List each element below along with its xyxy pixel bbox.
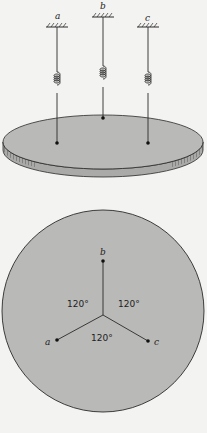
label-c-top: c — [145, 13, 150, 23]
spring-a-icon — [54, 72, 60, 85]
plan-view: b a c 120° 120° 120° — [2, 210, 204, 412]
support-c: c — [137, 13, 159, 27]
angle-label-bottom: 120° — [91, 333, 113, 343]
wire-b — [100, 17, 106, 120]
label-b-top: b — [100, 1, 106, 11]
disk-top-surface — [3, 115, 203, 169]
support-a: a — [46, 11, 68, 27]
plan-point-b — [101, 259, 105, 263]
label-c-plan: c — [154, 337, 159, 347]
plan-point-c — [146, 339, 150, 343]
attach-point-c — [146, 141, 150, 145]
support-b: b — [92, 1, 114, 17]
angle-label-left: 120° — [67, 299, 89, 309]
plan-point-a — [55, 338, 59, 342]
spring-c-icon — [145, 72, 151, 85]
attach-point-a — [55, 141, 59, 145]
diagram-canvas: a b c — [0, 0, 207, 433]
label-a-top: a — [55, 11, 60, 21]
label-a-plan: a — [45, 337, 50, 347]
angle-label-right: 120° — [118, 299, 140, 309]
label-b-plan: b — [100, 247, 106, 257]
attach-point-b — [101, 116, 105, 120]
spring-b-icon — [100, 66, 106, 79]
suspended-disk-view: a b c — [3, 1, 203, 177]
